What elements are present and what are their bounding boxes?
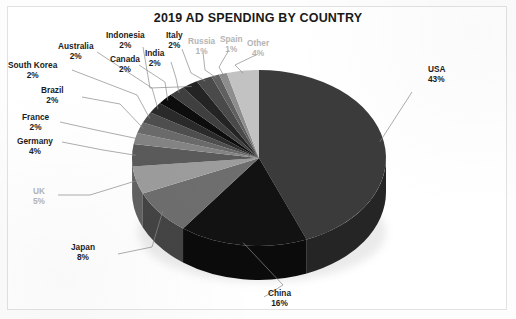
slice-label-usa-name: USA <box>428 64 446 74</box>
slice-label-germany-name: Germany <box>17 136 53 146</box>
leader-line-usa <box>380 92 412 142</box>
slice-label-other-name: Other <box>247 38 269 48</box>
leader-line-india <box>171 62 179 93</box>
slice-label-south-korea-pct: 2% <box>8 70 57 80</box>
leader-line-south-korea <box>72 70 150 119</box>
slice-label-australia-name: Australia <box>58 41 94 51</box>
slice-label-indonesia: Indonesia 2% <box>106 30 145 50</box>
slice-label-canada: Canada 2% <box>110 54 140 74</box>
leader-line-brazil <box>82 97 143 129</box>
leader-line-uk <box>58 180 140 195</box>
slice-label-india: India 2% <box>145 48 164 68</box>
slice-label-uk: UK 5% <box>33 186 45 206</box>
slice-label-other: Other 4% <box>247 38 269 58</box>
slice-label-russia: Russia 1% <box>188 36 215 56</box>
slice-label-australia-pct: 2% <box>58 51 94 61</box>
slice-label-russia-pct: 1% <box>188 46 215 56</box>
slice-label-spain: Spain 1% <box>220 34 243 54</box>
slice-label-canada-name: Canada <box>110 54 140 64</box>
slice-label-south-korea-name: South Korea <box>8 60 57 70</box>
slice-label-australia: Australia 2% <box>58 41 94 61</box>
pie-top-surface <box>132 70 386 246</box>
slice-label-france-pct: 2% <box>22 122 49 132</box>
slice-label-japan: Japan 8% <box>71 242 95 262</box>
slice-label-brazil-name: Brazil <box>41 85 64 95</box>
slice-label-brazil: Brazil 2% <box>41 85 64 105</box>
slice-label-spain-name: Spain <box>220 34 243 44</box>
slice-label-china-pct: 16% <box>268 298 291 308</box>
slice-label-china: China 16% <box>268 288 291 308</box>
slice-label-russia-name: Russia <box>188 36 215 46</box>
slice-label-france-name: France <box>22 112 49 122</box>
slice-label-japan-pct: 8% <box>71 252 95 262</box>
slice-label-uk-name: UK <box>33 186 45 196</box>
slice-label-germany: Germany 4% <box>17 136 53 156</box>
leader-line-france <box>60 122 139 139</box>
slice-label-indonesia-pct: 2% <box>106 40 145 50</box>
slice-label-brazil-pct: 2% <box>41 95 64 105</box>
leader-line-canada <box>139 65 168 101</box>
slice-label-uk-pct: 5% <box>33 196 45 206</box>
slice-label-japan-name: Japan <box>71 242 95 252</box>
slice-label-france: France 2% <box>22 112 49 132</box>
slice-label-spain-pct: 1% <box>220 44 243 54</box>
slice-label-other-pct: 4% <box>247 48 269 58</box>
slice-label-india-pct: 2% <box>145 58 164 68</box>
slice-label-germany-pct: 4% <box>17 146 53 156</box>
slice-label-india-name: India <box>145 48 164 58</box>
slice-label-italy-name: Italy <box>166 30 183 40</box>
slice-label-indonesia-name: Indonesia <box>106 30 145 40</box>
slice-label-south-korea: South Korea 2% <box>8 60 57 80</box>
leader-line-germany <box>62 142 136 155</box>
slice-label-usa-pct: 43% <box>428 74 446 84</box>
slice-label-usa: USA 43% <box>428 64 446 84</box>
slice-label-china-name: China <box>268 288 291 298</box>
chart-screenshot: 2019 AD SPENDING BY COUNTRY USA 43% Chin… <box>0 0 516 319</box>
slice-label-italy-pct: 2% <box>166 40 183 50</box>
slice-label-italy: Italy 2% <box>166 30 183 50</box>
slice-label-canada-pct: 2% <box>110 64 140 74</box>
